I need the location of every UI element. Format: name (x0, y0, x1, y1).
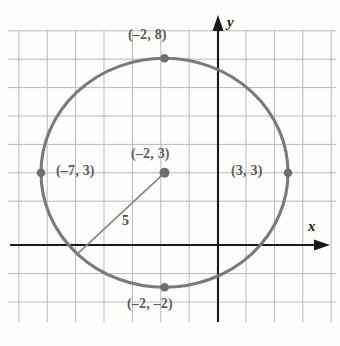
point-top (160, 54, 169, 63)
x-axis (10, 240, 330, 251)
point-bottom (160, 283, 169, 292)
label-left-point: (–7, 3) (56, 163, 95, 179)
label-center-point: (–2, 3) (131, 146, 170, 162)
point-left (37, 169, 46, 178)
radius-segment (77, 173, 164, 254)
circle-graph-figure: (–2, 8) (–7, 3) (3, 3) (–2, –2) (–2, 3) … (0, 0, 340, 346)
coordinate-plane-svg (0, 0, 340, 346)
label-right-point: (3, 3) (231, 163, 263, 179)
label-bottom-point: (–2, –2) (127, 296, 173, 312)
x-axis-label: x (308, 218, 316, 235)
label-top-point: (–2, 8) (128, 27, 167, 43)
point-right (284, 169, 293, 178)
y-axis-label: y (227, 14, 234, 31)
label-radius: 5 (122, 213, 129, 229)
point-center (160, 168, 170, 178)
